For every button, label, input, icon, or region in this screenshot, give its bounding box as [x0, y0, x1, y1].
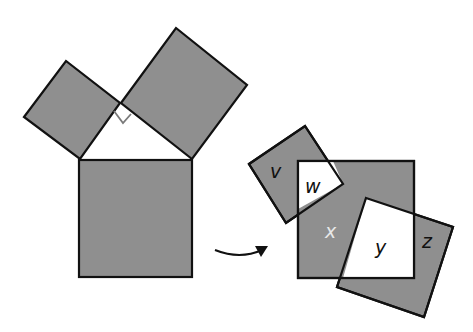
label-w: w	[305, 175, 321, 197]
hypotenuse-square	[79, 160, 192, 277]
transform-arrow	[215, 246, 268, 257]
label-x: x	[324, 220, 337, 242]
arrow-curve	[215, 250, 262, 255]
right-figure: v w x y z	[249, 126, 453, 317]
label-v: v	[270, 160, 282, 182]
pythagorean-diagram: v w x y z	[0, 0, 473, 332]
label-z: z	[421, 230, 433, 252]
label-y: y	[374, 236, 387, 258]
left-figure	[24, 28, 247, 277]
